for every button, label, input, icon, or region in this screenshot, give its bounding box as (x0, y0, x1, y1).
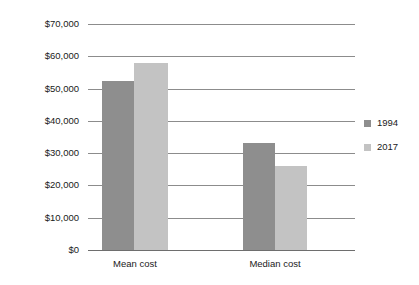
y-axis-tick-label: $30,000 (0, 148, 79, 158)
bar-median-cost-2017[interactable] (275, 166, 307, 250)
x-axis-label-median-cost: Median cost (215, 258, 335, 269)
bar-mean-cost-1994[interactable] (102, 81, 134, 251)
y-axis-tick-label: $60,000 (0, 51, 79, 61)
y-axis-tick-label: $50,000 (0, 84, 79, 94)
chart-legend: 1994 2017 (364, 118, 398, 166)
x-axis-label-mean-cost: Mean cost (75, 258, 195, 269)
legend-item-1994[interactable]: 1994 (364, 118, 398, 128)
legend-item-2017[interactable]: 2017 (364, 142, 398, 152)
legend-swatch-icon-1994 (364, 120, 371, 127)
y-axis-tick-label: $10,000 (0, 213, 79, 223)
gridline (88, 56, 355, 57)
x-axis-baseline (88, 250, 355, 251)
bar-chart: $0$10,000$20,000$30,000$40,000$50,000$60… (0, 0, 419, 285)
bar-median-cost-1994[interactable] (243, 143, 275, 250)
y-axis-tick-label: $0 (0, 245, 79, 255)
gridline (88, 24, 355, 25)
legend-label-1994: 1994 (377, 118, 398, 128)
legend-label-2017: 2017 (377, 142, 398, 152)
legend-swatch-icon-2017 (364, 144, 371, 151)
y-axis-tick-label: $20,000 (0, 180, 79, 190)
bar-mean-cost-2017[interactable] (134, 63, 168, 250)
y-axis-tick-label: $40,000 (0, 116, 79, 126)
y-axis-tick-label: $70,000 (0, 19, 79, 29)
